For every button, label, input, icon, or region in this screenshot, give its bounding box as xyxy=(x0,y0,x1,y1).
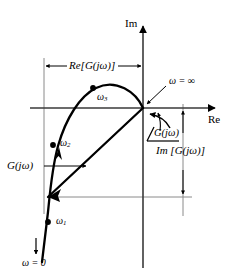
marker-omega-2 xyxy=(50,142,56,148)
angle-symbol-slash xyxy=(147,127,154,141)
frequency-markers xyxy=(45,85,96,225)
omega-infinity-label: ω = ∞ xyxy=(169,76,195,86)
omega-3-label: ω3 xyxy=(97,92,107,103)
gjw-vector-label: G(jω) xyxy=(7,160,33,171)
locus-outbound-path xyxy=(42,85,143,262)
marker-omega-3 xyxy=(90,85,96,91)
omega-3-sub: 3 xyxy=(104,95,107,102)
omega-infinity-leader xyxy=(147,86,166,104)
omega-2-sub: 2 xyxy=(67,141,70,148)
omega-2-base: ω xyxy=(60,137,67,148)
omega-1-label: ω1 xyxy=(56,216,66,227)
marker-omega-1 xyxy=(45,219,51,225)
real-axis-label: Re xyxy=(208,114,220,125)
polar-plot-figure: Im Re Re[G(jω)] Im [G(jω)] G(jω) G(jω) ω… xyxy=(0,0,240,274)
im-component-label: Im [G(jω)] xyxy=(156,145,205,156)
plot-canvas xyxy=(0,0,240,274)
omega-zero-label: ω = 0 xyxy=(22,258,46,268)
angle-gjw-label: G(jω) xyxy=(154,128,179,139)
omega-1-sub: 1 xyxy=(63,219,66,226)
omega-2-label: ω2 xyxy=(60,138,70,149)
locus-return-path xyxy=(48,108,143,197)
imaginary-axis-label: Im xyxy=(125,18,137,29)
omega-infinity-leader-line xyxy=(147,86,166,104)
omega-3-base: ω xyxy=(97,91,104,102)
omega-1-base: ω xyxy=(56,215,63,226)
gjw-locus xyxy=(42,85,143,262)
re-component-label: Re[G(jω)] xyxy=(69,60,115,71)
